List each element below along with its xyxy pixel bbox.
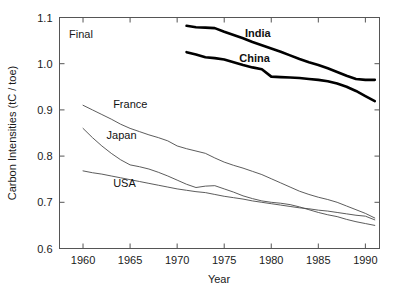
- y-tick-label: 0.9: [37, 104, 52, 116]
- y-tick-label: 1.1: [37, 12, 52, 24]
- series-label-japan: Japan: [107, 129, 137, 141]
- x-axis-title: Year: [208, 273, 231, 285]
- data-series-lines: [83, 26, 375, 226]
- y-tick-label: 0.8: [37, 150, 52, 162]
- y-tick-label: 0.6: [37, 243, 52, 255]
- chart-figure: 1960196519701975198019851990 0.60.70.80.…: [0, 0, 398, 294]
- x-tick-label: 1965: [118, 254, 142, 266]
- series-label-india: India: [245, 27, 272, 39]
- series-line-france: [83, 105, 375, 218]
- y-tick-label: 0.7: [37, 196, 52, 208]
- x-tick-label: 1980: [259, 254, 283, 266]
- y-axis-tick-labels: 0.60.70.80.91.01.1: [37, 12, 52, 255]
- x-tick-label: 1990: [353, 254, 377, 266]
- series-label-usa: USA: [113, 177, 136, 189]
- series-label-france: France: [113, 98, 147, 110]
- carbon-intensity-line-chart: 1960196519701975198019851990 0.60.70.80.…: [0, 0, 398, 294]
- x-tick-label: 1975: [212, 254, 236, 266]
- y-axis-title: Carbon Intensities (tC / toe): [6, 66, 18, 201]
- x-tick-label: 1985: [306, 254, 330, 266]
- series-line-india: [187, 26, 375, 80]
- x-tick-label: 1960: [71, 254, 95, 266]
- x-tick-label: 1970: [165, 254, 189, 266]
- x-axis-tick-labels: 1960196519701975198019851990: [71, 254, 378, 266]
- series-label-china: China: [239, 52, 270, 64]
- final-annotation: Final: [69, 28, 93, 40]
- y-tick-label: 1.0: [37, 58, 52, 70]
